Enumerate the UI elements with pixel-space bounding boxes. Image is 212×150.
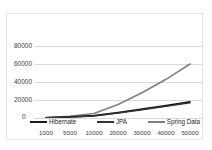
legend-swatch-icon: [30, 121, 47, 123]
y-axis-label-1: 20000: [14, 97, 32, 104]
legend-swatch-icon: [148, 121, 165, 123]
y-axis-label-4: 80000: [14, 43, 32, 50]
x-axis-label-3: 20000: [106, 128, 130, 137]
chart-legend: Hibernate JPA Spring Data: [30, 118, 200, 127]
legend-swatch-icon: [97, 121, 114, 123]
series-line-spring-data: [46, 64, 190, 118]
x-axis-label-5: 40000: [154, 128, 178, 137]
x-axis-tick-labels: 1000 5000 10000 20000 30000 40000 50000: [34, 128, 202, 137]
legend-label-spring-data: Spring Data: [167, 119, 200, 125]
legend-label-hibernate: Hibernate: [49, 119, 76, 125]
x-axis-label-0: 1000: [34, 128, 58, 137]
y-axis-label-3: 60000: [14, 61, 32, 68]
x-axis-label-4: 30000: [130, 128, 154, 137]
x-axis-label-6: 50000: [178, 128, 202, 137]
legend-item-jpa[interactable]: JPA: [97, 119, 127, 125]
x-axis-label-1: 5000: [58, 128, 82, 137]
chart-series-lines: [34, 46, 202, 118]
chart-plot-area: 80000 60000 40000 20000: [34, 46, 202, 118]
y-axis-label-0: 0: [22, 114, 26, 121]
y-axis-label-2: 40000: [14, 79, 32, 86]
legend-item-hibernate[interactable]: Hibernate: [30, 119, 76, 125]
chart-canvas: 80000 60000 40000 20000 0 Hibernate: [0, 0, 212, 150]
x-axis-label-2: 10000: [82, 128, 106, 137]
legend-label-jpa: JPA: [116, 119, 127, 125]
legend-item-spring-data[interactable]: Spring Data: [148, 119, 200, 125]
